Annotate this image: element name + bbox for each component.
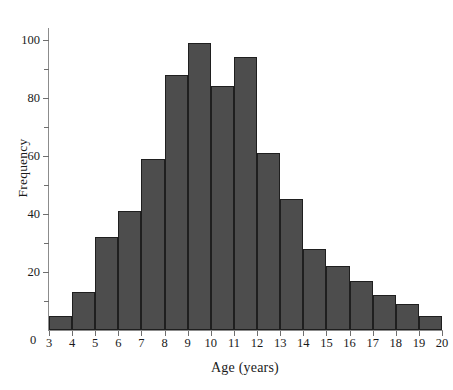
x-axis-tick-label: 6 xyxy=(106,336,130,351)
histogram-bar xyxy=(188,43,211,330)
histogram-bar xyxy=(280,199,303,330)
histogram-bar xyxy=(373,295,396,330)
y-axis-tick-label: 80 xyxy=(0,90,40,105)
histogram-bar xyxy=(326,266,349,330)
histogram-bar xyxy=(49,316,72,331)
histogram-bar xyxy=(95,237,118,330)
x-axis-label: Age (years) xyxy=(45,360,445,376)
histogram-figure: Frequency 0 20406080100 3456789101112131… xyxy=(0,0,453,390)
x-axis-tick-label: 19 xyxy=(407,336,431,351)
plot-area xyxy=(49,31,442,330)
y-axis-tick-label: 40 xyxy=(0,206,40,221)
histogram-bar xyxy=(141,159,164,330)
x-axis-tick-label: 20 xyxy=(430,336,453,351)
x-axis-tick-label: 7 xyxy=(129,336,153,351)
x-axis-tick-label: 4 xyxy=(60,336,84,351)
histogram-bar xyxy=(165,75,188,330)
histogram-bar xyxy=(419,316,442,331)
x-axis-tick-label: 12 xyxy=(245,336,269,351)
x-axis-tick-label: 16 xyxy=(338,336,362,351)
histogram-bar xyxy=(350,281,373,330)
histogram-bar xyxy=(234,57,257,330)
y-axis-tick-label: 60 xyxy=(0,148,40,163)
x-axis-tick-label: 9 xyxy=(176,336,200,351)
x-axis-tick-label: 3 xyxy=(37,336,61,351)
x-axis-tick-label: 5 xyxy=(83,336,107,351)
x-axis-tick-label: 11 xyxy=(222,336,246,351)
y-axis-tick-label: 100 xyxy=(0,32,40,47)
x-axis-tick-label: 10 xyxy=(199,336,223,351)
x-axis-tick-label: 18 xyxy=(384,336,408,351)
x-axis-tick-label: 8 xyxy=(153,336,177,351)
histogram-bar xyxy=(257,153,280,330)
x-axis-tick-label: 13 xyxy=(268,336,292,351)
histogram-bar xyxy=(118,211,141,330)
y-axis-tick-label: 20 xyxy=(0,264,40,279)
x-axis-line xyxy=(49,330,443,331)
histogram-bar xyxy=(303,249,326,330)
y-axis-origin-label: 0 xyxy=(30,333,36,348)
histogram-bar xyxy=(211,86,234,330)
histogram-bar xyxy=(72,292,95,330)
x-axis-tick-label: 15 xyxy=(314,336,338,351)
histogram-bar xyxy=(396,304,419,330)
x-axis-tick-label: 17 xyxy=(361,336,385,351)
x-axis-tick-label: 14 xyxy=(291,336,315,351)
